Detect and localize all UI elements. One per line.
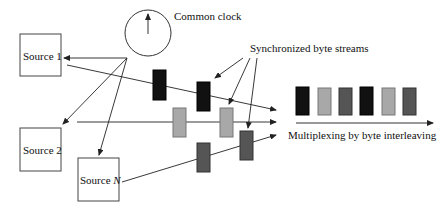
- stream2-byte: [173, 108, 186, 137]
- clock-distribution-arrows: [63, 58, 127, 155]
- clock-label: Common clock: [174, 10, 242, 22]
- output-byte: [360, 87, 373, 115]
- stream2-byte: [220, 108, 233, 137]
- source-n-var: N: [112, 174, 121, 186]
- source-n-box: Source N: [78, 158, 121, 201]
- output-byte: [296, 87, 309, 115]
- source-2-box: Source 2: [20, 128, 62, 171]
- source-n-label: Source: [80, 174, 113, 186]
- streams-label: Synchronized byte streams: [250, 42, 369, 54]
- streamN-byte: [197, 143, 210, 172]
- multiplexing-diagram: Common clock Source 1 Source 2 Source N …: [0, 0, 444, 217]
- multiplexed-output: [296, 87, 433, 123]
- output-byte: [403, 88, 416, 115]
- stream1-byte: [197, 82, 210, 111]
- streamN-byte: [240, 131, 253, 160]
- common-clock-icon: [125, 10, 171, 56]
- stream1-byte: [153, 70, 166, 100]
- source-2-label: Source 2: [23, 144, 62, 156]
- output-byte: [382, 88, 395, 115]
- output-byte: [339, 88, 352, 115]
- svg-text:Source N: Source N: [80, 174, 121, 186]
- mux-label: Multiplexing by byte interleaving: [288, 129, 437, 141]
- source-1-label: Source 1: [23, 50, 62, 62]
- source-1-box: Source 1: [20, 34, 62, 76]
- output-byte: [318, 88, 331, 115]
